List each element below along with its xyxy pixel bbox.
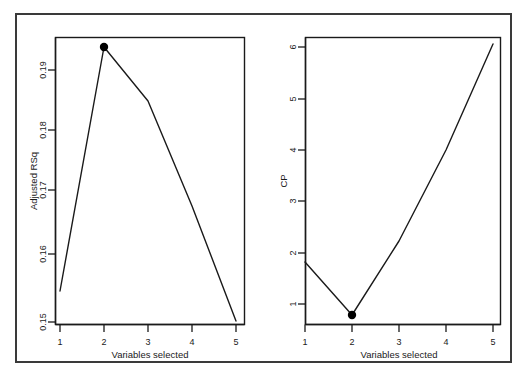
- right-y-tick-label-3: 3: [288, 198, 298, 203]
- left-y-tick-label-0.19: 0.19: [38, 61, 48, 79]
- left-y-tick-label-0.17: 0.17: [38, 181, 48, 199]
- right-plot-panel: [306, 38, 501, 325]
- left-y-tick-label-0.18: 0.18: [38, 121, 48, 139]
- right-x-tick-label-4: 4: [443, 337, 448, 347]
- left-y-tick-label-0.15: 0.15: [38, 313, 48, 331]
- left-data-line: [60, 47, 236, 321]
- left-x-tick-label-2: 2: [101, 337, 106, 347]
- left-x-ticks: [60, 325, 236, 333]
- left-x-tick-label-3: 3: [145, 337, 150, 347]
- right-x-axis-title: Variables selected: [361, 349, 438, 360]
- right-x-tick-label-2: 2: [349, 337, 354, 347]
- right-y-tick-label-5: 5: [288, 96, 298, 101]
- plots-canvas: 0.19 0.18 0.17 0.16 0.15 Adjusted RSq 1 …: [0, 0, 527, 383]
- right-y-tick-label-1: 1: [288, 301, 298, 306]
- right-y-ticks: [298, 47, 306, 304]
- right-y-tick-label-6: 6: [288, 44, 298, 49]
- adjusted-rsq-plot: 0.19 0.18 0.17 0.16 0.15 Adjusted RSq 1 …: [28, 38, 245, 361]
- figure-root: 0.19 0.18 0.17 0.16 0.15 Adjusted RSq 1 …: [0, 0, 527, 383]
- right-y-tick-label-2: 2: [288, 250, 298, 255]
- left-x-tick-label-5: 5: [233, 337, 238, 347]
- cp-plot: 6 5 4 3 2 1 CP 1 2 3 4 5: [278, 38, 501, 361]
- right-x-tick-label-5: 5: [490, 337, 495, 347]
- right-y-tick-label-4: 4: [288, 147, 298, 152]
- left-y-axis-title: Adjusted RSq: [28, 152, 39, 210]
- right-x-tick-label-3: 3: [396, 337, 401, 347]
- left-x-tick-label-4: 4: [189, 337, 194, 347]
- max-adjusted-rsq-point: [100, 43, 108, 51]
- left-y-ticks: [48, 70, 56, 322]
- min-cp-point: [348, 311, 356, 319]
- left-x-tick-label-1: 1: [57, 337, 62, 347]
- right-x-ticks: [305, 325, 493, 333]
- right-y-axis-title: CP: [278, 174, 289, 187]
- left-x-axis-title: Variables selected: [112, 349, 189, 360]
- left-y-tick-label-0.16: 0.16: [38, 245, 48, 263]
- right-x-tick-label-1: 1: [302, 337, 307, 347]
- right-data-line: [305, 44, 493, 315]
- left-plot-panel: [56, 38, 245, 325]
